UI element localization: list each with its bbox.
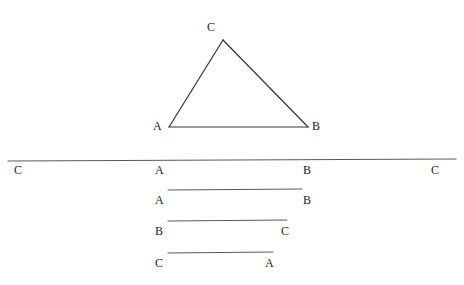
- segment-CA-end-label-A: A: [265, 257, 274, 269]
- triangle-vertex-label-B: B: [312, 120, 320, 132]
- segment-AB-start-label-A: A: [155, 194, 164, 206]
- segment-AB: [168, 189, 302, 190]
- long-horizontal-line: [8, 159, 456, 161]
- triangle-vertex-label-C: C: [207, 21, 215, 33]
- triangle-vertex-label-A: A: [153, 120, 162, 132]
- baseline-label-0-C: C: [14, 164, 22, 176]
- triangle-edge-BC: [223, 40, 308, 127]
- segment-AB-end-label-B: B: [303, 194, 311, 206]
- segment-CA: [168, 252, 273, 253]
- triangle-edge-CA: [169, 40, 223, 127]
- geometry-figure-canvas: ABCCABCABBCCA: [0, 0, 464, 285]
- figure-svg: [0, 0, 464, 285]
- segment-BC-start-label-B: B: [155, 225, 163, 237]
- segment-BC-end-label-C: C: [281, 225, 289, 237]
- baseline-label-1-A: A: [155, 164, 164, 176]
- segment-BC: [168, 220, 287, 221]
- baseline-label-2-B: B: [303, 164, 311, 176]
- baseline-label-3-C: C: [431, 164, 439, 176]
- segment-CA-start-label-C: C: [155, 257, 163, 269]
